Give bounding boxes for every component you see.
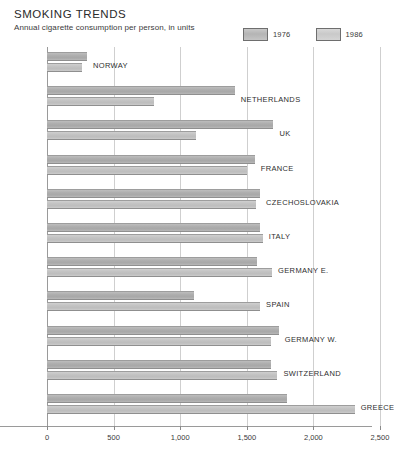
bar-row: NORWAY — [0, 49, 372, 83]
x-tick — [180, 426, 181, 430]
x-tick-label: 2,500 — [371, 433, 390, 442]
legend-item-1976: 1976 — [243, 28, 291, 41]
x-tick-label: 0 — [45, 433, 49, 442]
bar-1976 — [47, 360, 271, 369]
bar-1986 — [47, 200, 256, 209]
legend-swatch-icon-1976 — [243, 28, 268, 41]
bar-1986 — [47, 268, 272, 277]
gridline-2500 — [380, 47, 381, 426]
bar-1976 — [47, 120, 273, 129]
category-label: UK — [279, 129, 290, 138]
category-label: CZECHOSLOVAKIA — [266, 198, 339, 207]
bar-1976 — [47, 189, 260, 198]
legend-label-1976: 1976 — [273, 30, 291, 39]
chart-subtitle: Annual cigarette consumption per person,… — [14, 23, 195, 32]
bar-row: FRANCE — [0, 152, 372, 186]
category-label: FRANCE — [261, 164, 294, 173]
x-tick — [114, 426, 115, 430]
legend-label-1986: 1986 — [346, 30, 364, 39]
bar-1976 — [47, 223, 260, 232]
bar-1986 — [47, 166, 247, 175]
category-label: SPAIN — [266, 300, 290, 309]
bar-row: SPAIN — [0, 288, 372, 322]
x-tick — [47, 426, 48, 430]
bar-1986 — [47, 234, 263, 243]
legend-item-1986: 1986 — [316, 28, 364, 41]
x-axis-line — [0, 426, 372, 427]
bar-1976 — [47, 86, 235, 95]
x-axis: 05001,0001,5002,0002,500 — [0, 426, 372, 456]
x-tick — [380, 426, 381, 430]
bar-row: ITALY — [0, 220, 372, 254]
bar-1986 — [47, 63, 82, 72]
bar-1986 — [47, 405, 355, 414]
x-tick-label: 1,500 — [237, 433, 256, 442]
bar-row: GERMANY W. — [0, 323, 372, 357]
category-label: ITALY — [269, 232, 290, 241]
category-label: NETHERLANDS — [241, 95, 301, 104]
bar-rows: NORWAYNETHERLANDSUKFRANCECZECHOSLOVAKIAI… — [0, 47, 372, 426]
bar-row: GREECE — [0, 391, 372, 425]
category-label: GERMANY E. — [278, 266, 328, 275]
bar-1976 — [47, 52, 87, 61]
category-label: GREECE — [361, 403, 394, 412]
bar-row: UK — [0, 117, 372, 151]
bar-row: SWITZERLAND — [0, 357, 372, 391]
x-tick-label: 2,000 — [304, 433, 323, 442]
bar-row: CZECHOSLOVAKIA — [0, 186, 372, 220]
x-tick-label: 1,000 — [171, 433, 190, 442]
bar-1986 — [47, 131, 196, 140]
bar-1986 — [47, 302, 260, 311]
category-label: GERMANY W. — [285, 335, 337, 344]
category-label: SWITZERLAND — [283, 369, 341, 378]
page-title: SMOKING TRENDS — [14, 8, 126, 20]
bar-1976 — [47, 155, 255, 164]
bar-1976 — [47, 257, 257, 266]
bar-1976 — [47, 291, 194, 300]
bar-1976 — [47, 326, 279, 335]
x-tick-label: 500 — [107, 433, 120, 442]
category-label: NORWAY — [93, 61, 128, 70]
bar-1986 — [47, 337, 271, 346]
bar-row: NETHERLANDS — [0, 83, 372, 117]
bar-1976 — [47, 394, 287, 403]
x-tick — [247, 426, 248, 430]
x-tick — [313, 426, 314, 430]
bar-1986 — [47, 97, 154, 106]
bar-1986 — [47, 371, 277, 380]
chart-legend: 1976 1986 — [243, 28, 363, 41]
legend-swatch-icon-1986 — [316, 28, 341, 41]
bar-row: GERMANY E. — [0, 254, 372, 288]
plot-area: NORWAYNETHERLANDSUKFRANCECZECHOSLOVAKIAI… — [0, 47, 372, 426]
